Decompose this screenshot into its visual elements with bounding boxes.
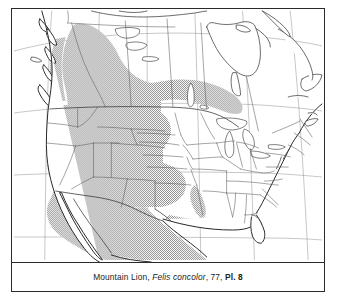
border-ia-il <box>217 143 223 157</box>
coastline-gulf-st-lawrence <box>288 96 308 98</box>
border-mn-wi <box>201 113 215 139</box>
border-ky-tn <box>227 181 279 185</box>
coastline-james-bay <box>231 73 240 96</box>
lake-of-the-woods <box>200 105 209 109</box>
plate-frame: Mountain Lion, Felis concolor, 77, Pl. 8 <box>11 8 325 292</box>
border-tn-al-ga <box>227 193 261 195</box>
border-quebec-us <box>272 121 300 133</box>
figure-root: Mountain Lion, Felis concolor, 77, Pl. 8 <box>0 0 337 302</box>
border-la-ms <box>227 193 233 217</box>
coastline-labrador <box>278 29 313 80</box>
lake-superior <box>217 118 247 130</box>
border-ne-ia-mo <box>183 145 193 159</box>
lake-michigan <box>225 131 234 158</box>
figure-caption: Mountain Lion, Felis concolor, 77, Pl. 8 <box>93 273 243 281</box>
border-ar-la <box>203 191 227 193</box>
border-new-england <box>294 133 310 145</box>
border-ia-mo <box>193 157 223 159</box>
border-il-mo-ky <box>223 157 241 169</box>
border-ok-ar <box>191 169 197 185</box>
north-america-range-map <box>12 9 324 262</box>
border-ontario-quebec <box>246 77 258 131</box>
border-mo-ar <box>193 169 227 171</box>
coastline-hudson-bay <box>207 22 261 76</box>
lake-great-bear <box>115 28 139 39</box>
coastline-delaware-bay <box>283 149 289 159</box>
border-ga-fl <box>245 213 258 215</box>
caption-bar: Mountain Lion, Felis concolor, 77, Pl. 8 <box>12 263 324 291</box>
border-ms-al <box>233 193 236 217</box>
coastline-arctic-north <box>91 11 206 17</box>
caption-page-number: 77 <box>211 272 221 282</box>
border-yukon-nwt <box>68 11 69 23</box>
coastline-florida <box>251 215 265 243</box>
caption-plate-label: Pl. 8 <box>225 272 243 282</box>
border-oh-ky-wv <box>241 169 275 173</box>
lake-erie <box>250 151 270 158</box>
border-ks-mo <box>187 157 193 169</box>
lake-ontario <box>268 145 285 150</box>
lake-huron <box>243 129 255 150</box>
border-nd-mn <box>175 113 181 135</box>
caption-species-name: Felis concolor <box>152 272 205 282</box>
coastline-baffin <box>262 11 290 37</box>
lake-great-slave <box>126 42 147 50</box>
coastline-gulf-us <box>163 217 256 230</box>
map-panel <box>12 9 324 262</box>
coastline-queen-charlotte <box>31 57 42 62</box>
lake-athabasca <box>142 57 159 62</box>
caption-common-name: Mountain Lion <box>93 272 147 282</box>
border-il-in <box>237 143 243 167</box>
border-mn-ia <box>187 143 217 145</box>
border-sd-mn-ia <box>181 135 187 145</box>
